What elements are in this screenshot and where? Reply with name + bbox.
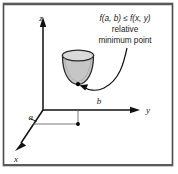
z-axis-label: z xyxy=(38,13,43,23)
x-axis-label: x xyxy=(13,154,18,164)
annotation-line-2: relative xyxy=(112,25,139,34)
annotation-relation: ≤ xyxy=(121,14,130,23)
y-axis-label: y xyxy=(145,105,150,115)
bowl-rim-ellipse xyxy=(62,50,93,61)
a-label: a xyxy=(29,112,34,122)
annotation-line-3: minimum point xyxy=(98,36,152,45)
figure-container: z y x a b f(a, b) ≤ f(x, y) relative min… xyxy=(0,0,178,174)
relative-minimum-point-dot xyxy=(76,82,80,86)
point-a-b-in-plane xyxy=(76,122,80,126)
annotation-args2: (x, y) xyxy=(132,14,150,23)
annotation-args1: (a, b) xyxy=(102,14,121,23)
annotation-line-1: f(a, b) ≤ f(x, y) xyxy=(100,14,151,23)
b-label: b xyxy=(97,96,102,106)
diagram-canvas: z y x a b f(a, b) ≤ f(x, y) relative min… xyxy=(0,0,178,174)
